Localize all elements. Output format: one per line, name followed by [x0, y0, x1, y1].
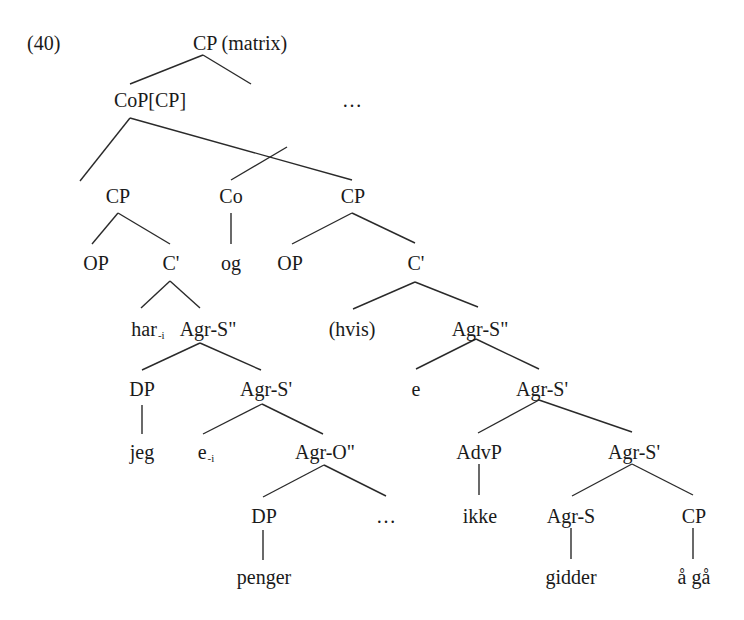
node-dp-subject: DP: [129, 378, 155, 400]
word-jeg: jeg: [130, 441, 154, 463]
node-co: Co: [219, 185, 242, 207]
node-e-empty: e: [412, 378, 421, 400]
node-agrs1-inner: Agr-S': [608, 441, 660, 463]
word-aa-gaa: å gå: [678, 566, 711, 588]
node-agrs2-left: Agr-S": [180, 318, 237, 340]
node-cp-complement: CP: [682, 505, 706, 527]
node-agrs1-left: Agr-S': [240, 378, 292, 400]
node-cbar-right: C': [408, 252, 425, 274]
index-i: -i: [208, 452, 215, 464]
node-ellipsis-top: …: [342, 89, 362, 111]
node-dp-object: DP: [251, 505, 277, 527]
node-op-left: OP: [83, 252, 109, 274]
tree-edges: [0, 0, 744, 620]
node-ellipsis-object: …: [376, 505, 396, 527]
word-ikke: ikke: [463, 505, 497, 527]
word-har-text: har: [131, 318, 157, 340]
node-agrs-head: Agr-S: [547, 505, 596, 527]
word-og: og: [221, 252, 241, 274]
word-hvis: (hvis): [329, 318, 376, 340]
node-agrs1-right: Agr-S': [516, 378, 568, 400]
node-agro2: Agr-O": [295, 441, 355, 463]
word-gidder: gidder: [545, 566, 596, 588]
node-cp-left: CP: [106, 185, 130, 207]
node-op-right: OP: [277, 252, 303, 274]
word-har: har-i: [131, 318, 164, 346]
index-i: -i: [158, 329, 165, 341]
word-penger: penger: [237, 566, 291, 588]
trace-e: e-i: [198, 441, 215, 469]
node-cop: CoP[CP]: [114, 89, 186, 111]
trace-e-text: e: [198, 441, 207, 463]
node-cp-matrix: CP (matrix): [193, 32, 287, 54]
node-advp: AdvP: [456, 441, 502, 463]
node-cbar-left: C': [163, 252, 180, 274]
node-agrs2-right: Agr-S": [452, 318, 509, 340]
node-cp-right: CP: [341, 185, 365, 207]
